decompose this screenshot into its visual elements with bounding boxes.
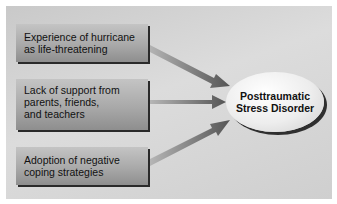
outcome-ellipse-ptsd: Posttraumatic Stress Disorder [226,72,324,132]
cause-text: coping strategies [24,166,148,178]
cause-text: as life-threatening [24,43,148,55]
outcome-text: Posttraumatic [236,90,314,103]
cause-box-coping: Adoption of negative coping strategies [16,147,148,185]
cause-box-hurricane: Experience of hurricane as life-threaten… [16,24,148,62]
cause-text: and teachers [24,108,148,120]
cause-text: Experience of hurricane [24,31,148,43]
arrow-1 [146,44,230,88]
cause-text: Adoption of negative [24,154,148,166]
arrow-3 [148,120,230,166]
cause-box-lack-of-support: Lack of support from parents, friends, a… [16,79,148,130]
arrow-2 [148,95,226,109]
cause-text: parents, friends, [24,96,148,108]
outcome-text: Stress Disorder [236,102,314,115]
cause-text: Lack of support from [24,84,148,96]
